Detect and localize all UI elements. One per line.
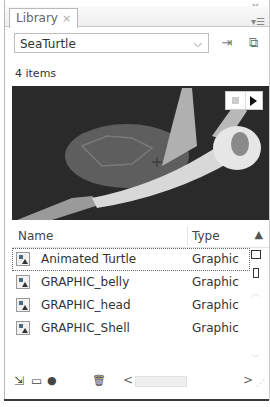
scroll-thumb[interactable]	[135, 376, 187, 387]
stop-icon[interactable]	[232, 97, 239, 104]
graphic-symbol-icon	[16, 298, 30, 312]
play-icon[interactable]	[250, 96, 257, 106]
divider	[245, 92, 246, 109]
delete-icon[interactable]: 🗑	[92, 374, 106, 387]
preview-controls	[225, 91, 263, 110]
library-select-value: SeaTurtle	[20, 37, 76, 51]
new-folder-icon[interactable]: ▭	[31, 374, 42, 388]
tab-bar: Library×	[5, 6, 269, 27]
list-item[interactable]: GRAPHIC_Shell Graphic	[12, 317, 250, 340]
panel-menu-icon[interactable]: ▾☰	[251, 16, 265, 27]
tab-close-icon[interactable]: ×	[62, 12, 71, 25]
library-select[interactable]: SeaTurtle ⌵	[14, 33, 209, 53]
tab-label: Library	[16, 11, 58, 25]
new-symbol-icon[interactable]: ⇲	[14, 374, 24, 388]
resize-grip-icon[interactable]: ⋰	[256, 378, 265, 388]
scroll-up-icon[interactable]: ︿	[251, 286, 260, 299]
eye	[231, 132, 249, 156]
column-name[interactable]: Name	[18, 229, 53, 243]
graphic-symbol-icon	[16, 275, 30, 289]
horizontal-scrollbar[interactable]: < >	[123, 374, 253, 388]
scroll-right-icon[interactable]: >	[243, 373, 253, 387]
list-item[interactable]: GRAPHIC_head Graphic	[12, 294, 250, 317]
new-library-panel-icon[interactable]: ⧉	[243, 34, 263, 52]
item-name: GRAPHIC_Shell	[41, 321, 130, 335]
item-name: GRAPHIC_head	[41, 298, 131, 312]
scroll-left-icon[interactable]: <	[123, 373, 133, 387]
item-type: Graphic	[192, 275, 239, 289]
library-items: Animated Turtle Graphic GRAPHIC_belly Gr…	[12, 248, 250, 340]
item-type: Graphic	[192, 321, 239, 335]
item-name: Animated Turtle	[41, 252, 136, 266]
column-header: Name Type ▲	[12, 225, 269, 248]
panel-bottom-border	[4, 399, 269, 401]
list-item[interactable]: GRAPHIC_belly Graphic	[12, 271, 250, 294]
item-type: Graphic	[192, 298, 239, 312]
item-type: Graphic	[192, 252, 239, 266]
list-item[interactable]: Animated Turtle Graphic	[12, 248, 250, 271]
pin-library-icon[interactable]: ⇥	[217, 34, 237, 52]
tab-library[interactable]: Library×	[9, 8, 78, 28]
item-name: GRAPHIC_belly	[41, 275, 129, 289]
library-panel: –× Library× ▾☰ SeaTurtle ⌵ ⇥ ⧉ 4 items	[4, 0, 270, 400]
column-divider[interactable]	[187, 227, 188, 245]
wide-view-icon[interactable]	[251, 250, 261, 259]
narrow-view-icon[interactable]	[253, 268, 259, 278]
sort-arrow-icon[interactable]: ▲	[255, 228, 263, 241]
vertical-scrollbar[interactable]: ︿ ﹀	[250, 248, 264, 368]
chevron-down-icon: ⌵	[194, 34, 202, 54]
graphic-symbol-icon	[16, 321, 30, 335]
symbol-preview	[12, 86, 269, 220]
graphic-symbol-icon	[16, 252, 30, 266]
item-count: 4 items	[15, 67, 56, 80]
properties-icon[interactable]: ●	[47, 374, 57, 387]
scroll-down-icon[interactable]: ﹀	[251, 352, 260, 365]
column-type[interactable]: Type	[192, 229, 220, 243]
